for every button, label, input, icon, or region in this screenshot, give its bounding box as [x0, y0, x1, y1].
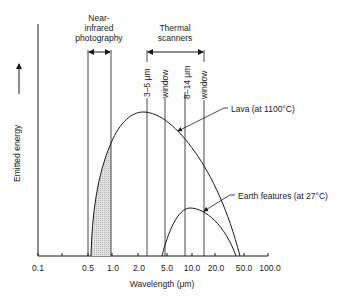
tick-label: 10.0	[184, 263, 201, 273]
window-3-5-label: window	[160, 69, 170, 99]
x-axis-label: Wavelength (μm)	[130, 279, 195, 289]
tick-label: 50.0	[236, 263, 253, 273]
tick-label: 2.0	[133, 263, 145, 273]
tick-label: 0.5	[82, 263, 94, 273]
y-axis-label: Emitted energy	[12, 124, 22, 182]
tick-label: 100.0	[259, 263, 281, 273]
window-3-5-label: 3–5 μm	[142, 68, 152, 97]
near-ir-label: photography	[75, 33, 123, 43]
spectral-emission-diagram: 0.1 0.5 1.0 2.0 5.0 10.0 20.0 50.0 100.0…	[0, 0, 346, 299]
near-ir-label: Near-	[88, 13, 109, 23]
tick-label: 20.0	[208, 263, 225, 273]
shaded-near-ir-region	[91, 143, 111, 256]
near-ir-label: infrared	[85, 23, 114, 33]
tick-label: 1.0	[107, 263, 119, 273]
earth-curve	[162, 208, 236, 256]
lava-leader-arrow-icon	[178, 108, 228, 131]
window-8-14-label: window	[199, 70, 209, 100]
tick-label: 0.1	[32, 263, 44, 273]
tick-label: 5.0	[161, 263, 173, 273]
earth-leader-arrow-icon	[204, 195, 235, 211]
lava-label: Lava (at 1100°C)	[231, 104, 295, 114]
lava-curve	[91, 112, 240, 256]
earth-label: Earth features (at 27°C)	[238, 191, 328, 201]
thermal-scanners-label: scanners	[158, 33, 193, 43]
thermal-scanners-label: Thermal	[159, 23, 190, 33]
window-8-14-label: 8–14 μm	[182, 66, 192, 99]
